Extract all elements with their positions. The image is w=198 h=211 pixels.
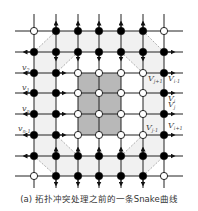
filled-node [160, 152, 168, 160]
filled-node [160, 110, 168, 118]
filled-node [52, 27, 60, 35]
vertex-label: v1 [22, 83, 30, 93]
filled-node [74, 48, 82, 56]
filled-node [95, 48, 103, 56]
filled-node [30, 152, 38, 160]
open-node [74, 69, 81, 76]
filled-node [52, 172, 60, 180]
open-node [139, 131, 146, 138]
open-node [30, 172, 37, 179]
filled-node [95, 172, 103, 180]
filled-node [74, 172, 82, 180]
open-node [139, 89, 146, 96]
filled-node [139, 172, 147, 180]
filled-node [160, 89, 168, 97]
filled-node [30, 89, 38, 97]
open-node [160, 172, 167, 179]
filled-node [52, 48, 60, 56]
snake-grid-diagram: v2v1vnvn-1Vj+1Vi-1ViVjVj-1Vi+1 [0, 0, 198, 190]
filled-node [160, 131, 168, 139]
vertex-label: v2 [22, 63, 30, 73]
filled-node [30, 131, 38, 139]
open-node [117, 110, 124, 117]
open-node [139, 69, 146, 76]
open-node [95, 131, 102, 138]
filled-node [74, 152, 82, 160]
filled-node [52, 110, 60, 118]
open-node [117, 89, 124, 96]
open-node [74, 131, 81, 138]
filled-node [52, 152, 60, 160]
filled-node [30, 110, 38, 118]
open-node [74, 89, 81, 96]
open-node [117, 131, 124, 138]
filled-node [160, 48, 168, 56]
vertex-label: Vi-1 [168, 74, 180, 84]
filled-node [139, 27, 147, 35]
filled-node [139, 48, 147, 56]
filled-node [74, 27, 82, 35]
open-node [117, 69, 124, 76]
open-node [160, 27, 167, 34]
open-node [74, 110, 81, 117]
filled-node [139, 152, 147, 160]
vertex-label: vn-1 [18, 124, 31, 134]
vertex-label: vn [22, 104, 30, 114]
filled-node [30, 48, 38, 56]
filled-node [117, 152, 125, 160]
filled-node [160, 69, 168, 77]
open-node [30, 27, 37, 34]
filled-node [30, 69, 38, 77]
filled-node [52, 131, 60, 139]
open-node [95, 110, 102, 117]
vertex-label: Vi+1 [168, 121, 183, 131]
open-node [95, 69, 102, 76]
filled-node [95, 152, 103, 160]
filled-node [52, 89, 60, 97]
filled-node [52, 69, 60, 77]
filled-node [95, 27, 103, 35]
filled-node [117, 172, 125, 180]
filled-node [117, 27, 125, 35]
figure-caption: (a) 拓扑冲突处理之前的一条Snake曲线 [0, 192, 198, 204]
open-node [95, 89, 102, 96]
filled-node [117, 48, 125, 56]
open-node [139, 110, 146, 117]
